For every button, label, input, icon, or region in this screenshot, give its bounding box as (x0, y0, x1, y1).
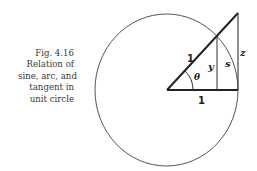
radius-label: 1 (187, 53, 194, 64)
unit-circle-diagram: 1 1 θ y s z (0, 0, 257, 171)
arc-s-label: s (225, 58, 231, 69)
tangent-z-label: z (239, 47, 246, 58)
sine-y-label: y (207, 61, 215, 72)
angle-arc (185, 71, 193, 90)
angle-theta-label: θ (194, 72, 200, 82)
base-label: 1 (198, 95, 205, 106)
